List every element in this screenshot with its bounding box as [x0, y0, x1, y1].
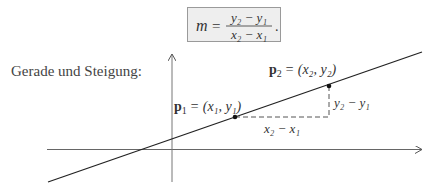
dx-label: x₂ − x₁ — [263, 121, 300, 136]
formula-equals: = — [212, 18, 220, 34]
slope-diagram: m = y₂ − y₁ x₂ − x₁ . p1= (x₁, y₁) p2= (… — [0, 0, 433, 191]
formula-lhs: m — [196, 17, 208, 34]
point-p1 — [233, 115, 238, 120]
dy-label: y₂ − y₁ — [332, 95, 370, 110]
formula-denominator: x₂ − x₁ — [230, 27, 267, 42]
point-p2 — [327, 84, 332, 89]
formula-period: . — [275, 19, 279, 34]
formula-numerator: y₂ − y₁ — [229, 10, 267, 25]
p2-label: p2= (x₂, y₂) — [269, 62, 337, 79]
p1-label: p1= (x₁, y₁) — [174, 99, 242, 116]
